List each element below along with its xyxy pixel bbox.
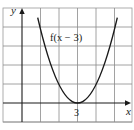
y-axis-arrow-icon bbox=[19, 8, 24, 14]
curve-label: f(x − 3) bbox=[50, 32, 83, 44]
axes bbox=[3, 12, 127, 122]
y-axis-label: y bbox=[10, 4, 16, 16]
graph: y x f(x − 3) 3 bbox=[0, 0, 134, 130]
x-tick-label-3: 3 bbox=[74, 107, 79, 118]
x-axis-label: x bbox=[125, 105, 131, 117]
